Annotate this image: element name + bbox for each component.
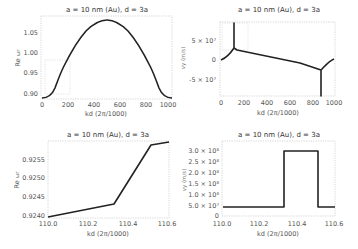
panel-title: a = 10 nm (Au), d = 3a xyxy=(238,131,320,139)
data-curve xyxy=(42,20,172,98)
panel-vy-full: a = 10 nm (Au), d = 3a 5 × 10⁷ 0 -5 × 10… xyxy=(180,6,342,117)
data-curve xyxy=(48,142,169,217)
plot-frame xyxy=(41,16,172,99)
x-tick: 200 xyxy=(238,99,250,107)
y-tick: 1.5 × 10⁸ xyxy=(188,180,219,188)
figure: a = 10 nm (Au), d = 3a 0.90 0.95 1.00 1.… xyxy=(0,0,358,249)
x-tick: 800 xyxy=(307,99,319,107)
y-axis-label: Reωr xyxy=(13,171,21,189)
x-tick: 110.0 xyxy=(213,220,232,228)
panel-title: a = 10 nm (Au), d = 3a xyxy=(238,6,320,14)
x-tick: 110.6 xyxy=(325,220,344,228)
y-axis-label: Reωr xyxy=(14,49,22,67)
y-tick: 1.00 xyxy=(24,49,38,57)
x-tick: 110.0 xyxy=(39,220,58,228)
x-tick: 110.6 xyxy=(158,220,177,228)
x-tick: 400 xyxy=(261,99,273,107)
y-tick: -5 × 10⁷ xyxy=(189,76,216,84)
x-tick: 400 xyxy=(88,101,100,109)
svg-text:Reωr: Reωr xyxy=(14,49,22,67)
x-tick: 110.2 xyxy=(250,220,269,228)
x-tick: 600 xyxy=(114,101,126,109)
x-tick: 800 xyxy=(140,101,152,109)
y-axis-label: vy (m/s) xyxy=(181,169,188,192)
x-tick: 1000 xyxy=(326,99,343,107)
y-tick: 3.0 × 10⁸ xyxy=(188,147,219,155)
data-curve xyxy=(221,23,334,96)
y-tick: 0.9255 xyxy=(22,156,45,164)
panel-title: a = 10 nm (Au), d = 3a xyxy=(67,131,149,139)
x-tick: 110.4 xyxy=(288,220,307,228)
panel-title: a = 10 nm (Au), d = 3a xyxy=(66,6,148,14)
inset-box xyxy=(222,23,248,50)
x-tick: 200 xyxy=(62,101,74,109)
x-axis-label: kd (2π/1000) xyxy=(87,230,129,238)
y-axis-label: vy (m/s) xyxy=(180,47,187,70)
y-tick: 5 × 10⁷ xyxy=(191,37,216,45)
y-tick: 1.05 xyxy=(24,29,38,37)
plot-frame xyxy=(48,141,169,218)
y-tick: 0.9250 xyxy=(22,174,45,182)
x-tick: 1000 xyxy=(160,101,177,109)
y-tick: 1.0 × 10⁸ xyxy=(188,191,219,199)
y-tick: 0 xyxy=(212,56,216,64)
x-tick: 0 xyxy=(219,99,223,107)
y-tick: 2.0 × 10⁸ xyxy=(188,169,219,177)
y-tick: 0 xyxy=(215,212,219,220)
x-axis-label: kd (2π/1000) xyxy=(257,109,299,117)
x-tick: 0 xyxy=(40,101,44,109)
panel-vy-zoom: a = 10 nm (Au), d = 3a 0 5.0 × 10⁷ 1.0 ×… xyxy=(181,131,343,238)
panel-re-omega-full: a = 10 nm (Au), d = 3a 0.90 0.95 1.00 1.… xyxy=(14,6,176,118)
inset-box xyxy=(45,60,70,94)
y-tick: 2.5 × 10⁸ xyxy=(188,158,219,166)
svg-text:Reωr: Reωr xyxy=(13,171,21,189)
panel-re-omega-zoom: a = 10 nm (Au), d = 3a 0.9240 0.9245 0.9… xyxy=(13,131,176,238)
y-tick: 0.9240 xyxy=(22,212,45,220)
x-tick: 110.4 xyxy=(119,220,138,228)
x-tick: 110.2 xyxy=(79,220,98,228)
x-axis-label: kd (2π/1000) xyxy=(85,110,127,118)
y-tick: 0.90 xyxy=(24,90,38,98)
x-axis-label: kd (2π/1000) xyxy=(257,230,299,238)
figure-canvas: a = 10 nm (Au), d = 3a 0.90 0.95 1.00 1.… xyxy=(0,0,358,249)
y-tick: 0.9245 xyxy=(22,193,45,201)
data-curve xyxy=(223,151,335,207)
y-tick: 0.95 xyxy=(24,69,38,77)
x-tick: 600 xyxy=(284,99,296,107)
y-tick: 5.0 × 10⁷ xyxy=(188,202,219,210)
